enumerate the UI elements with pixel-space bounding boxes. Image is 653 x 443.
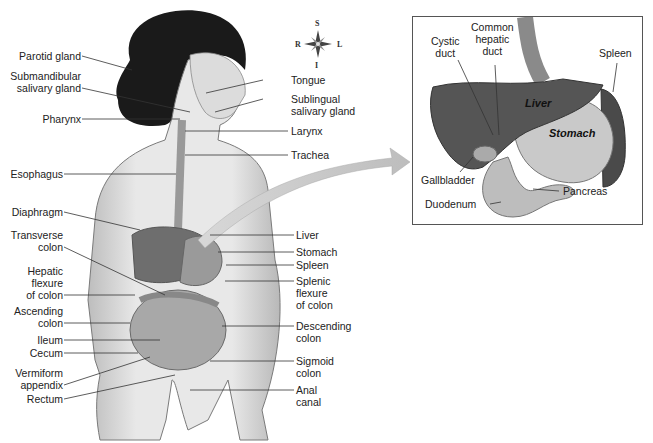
inset-gallbladder [473, 146, 497, 162]
label-larynx: Larynx [291, 125, 323, 137]
compass-rose [304, 30, 332, 58]
label-inset-stomach: Stomach [549, 127, 595, 139]
label-anal-canal: Anal canal [296, 384, 321, 408]
label-pharynx: Pharynx [42, 113, 81, 125]
label-duodenum: Duodenum [425, 198, 476, 210]
label-sigmoid-colon: Sigmoid colon [296, 355, 334, 379]
label-common-hepatic-duct: Common hepatic duct [471, 21, 514, 57]
label-transverse-colon: Transverse colon [11, 229, 63, 253]
label-rectum: Rectum [27, 393, 63, 405]
label-liver: Liver [296, 229, 319, 241]
label-spleen: Spleen [296, 259, 329, 271]
label-splenic-flexure: Splenic flexure of colon [296, 275, 333, 311]
label-gallbladder: Gallbladder [421, 174, 475, 186]
esophagus [178, 120, 182, 230]
label-tongue: Tongue [291, 74, 325, 86]
label-vermiform-appendix: Vermiform appendix [15, 367, 63, 391]
label-hepatic-flexure: Hepatic flexure of colon [26, 265, 63, 301]
label-stomach: Stomach [296, 246, 337, 258]
label-cystic-duct: Cystic duct [431, 35, 460, 59]
label-descending-colon: Descending colon [296, 320, 351, 344]
compass-inferior: I [315, 61, 318, 70]
label-ileum: Ileum [37, 334, 63, 346]
label-diaphragm: Diaphragm [12, 206, 63, 218]
compass-right: R [295, 40, 301, 49]
label-inset-liver: Liver [525, 97, 551, 109]
compass-superior: S [315, 19, 319, 28]
inset-esophagus [525, 17, 543, 82]
label-submandibular-gland: Submandibular salivary gland [10, 70, 81, 94]
inset-panel: Cystic duct Common hepatic duct Spleen G… [412, 16, 643, 225]
label-parotid-gland: Parotid gland [19, 50, 81, 62]
label-cecum: Cecum [30, 347, 63, 359]
label-trachea: Trachea [291, 149, 329, 161]
label-sublingual-gland: Sublingual salivary gland [291, 93, 355, 117]
label-pancreas: Pancreas [563, 185, 607, 197]
label-ascending-colon: Ascending colon [14, 305, 63, 329]
label-inset-spleen: Spleen [599, 47, 632, 59]
label-esophagus: Esophagus [10, 168, 63, 180]
compass-left: L [337, 40, 342, 49]
